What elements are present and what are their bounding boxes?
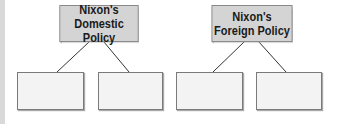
domestic-policy-header: Nixon's Domestic Policy [59, 5, 138, 42]
domestic-child-box-2[interactable] [98, 72, 163, 110]
connector-foreign-left [213, 42, 244, 72]
foreign-title-line2: Foreign Policy [214, 24, 290, 38]
foreign-child-box-1[interactable] [176, 72, 243, 110]
connector-domestic-left [57, 42, 89, 72]
foreign-child-box-2[interactable] [256, 72, 322, 110]
connector-domestic-right [104, 42, 129, 72]
domestic-title-line2: Domestic Policy [60, 17, 137, 45]
foreign-policy-header: Nixon's Foreign Policy [212, 5, 293, 42]
foreign-title-line1: Nixon's [214, 10, 290, 24]
domestic-child-box-1[interactable] [17, 72, 84, 110]
domestic-title-line1: Nixon's [60, 3, 137, 17]
connector-foreign-right [259, 42, 286, 72]
